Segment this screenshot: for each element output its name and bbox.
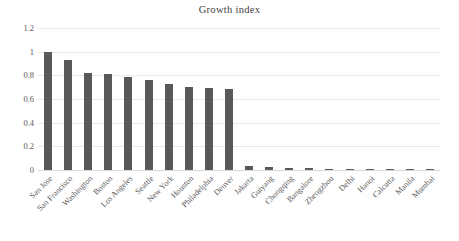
y-tick-label: 0 — [0, 165, 34, 175]
bar-slot — [199, 28, 219, 170]
y-tick-label: 1 — [0, 47, 34, 57]
bars-layer — [38, 28, 440, 170]
bar-slot — [38, 28, 58, 170]
bar-slot — [159, 28, 179, 170]
growth-index-chart: Growth index 00.20.40.60.811.2 San JoseS… — [0, 0, 459, 241]
bar[interactable] — [346, 169, 354, 170]
bar-slot — [259, 28, 279, 170]
gridline-0 — [38, 170, 440, 171]
bar[interactable] — [265, 167, 273, 170]
bar-slot — [58, 28, 78, 170]
bar[interactable] — [406, 169, 414, 170]
bar[interactable] — [145, 80, 153, 170]
bar-slot — [319, 28, 339, 170]
bar[interactable] — [386, 169, 394, 170]
bar[interactable] — [225, 89, 233, 170]
bar-slot — [400, 28, 420, 170]
bar-slot — [380, 28, 400, 170]
bar[interactable] — [426, 169, 434, 170]
bar-slot — [360, 28, 380, 170]
bar[interactable] — [366, 169, 374, 170]
bar-slot — [139, 28, 159, 170]
y-tick-label: 1.2 — [0, 23, 34, 33]
bar[interactable] — [84, 73, 92, 170]
y-tick-label: 0.2 — [0, 141, 34, 151]
y-tick-label: 0.4 — [0, 118, 34, 128]
bar[interactable] — [185, 87, 193, 170]
y-tick-label: 0.8 — [0, 70, 34, 80]
bar-slot — [340, 28, 360, 170]
bar-slot — [420, 28, 440, 170]
bar[interactable] — [104, 74, 112, 170]
bar-slot — [299, 28, 319, 170]
bar[interactable] — [305, 168, 313, 170]
bar[interactable] — [124, 77, 132, 170]
bar[interactable] — [285, 168, 293, 170]
bar-slot — [239, 28, 259, 170]
bar-slot — [219, 28, 239, 170]
bar-slot — [98, 28, 118, 170]
bar-slot — [78, 28, 98, 170]
bar-slot — [118, 28, 138, 170]
bar[interactable] — [325, 169, 333, 170]
bar-slot — [179, 28, 199, 170]
y-tick-label: 0.6 — [0, 94, 34, 104]
bar[interactable] — [245, 166, 253, 170]
bar-slot — [279, 28, 299, 170]
y-axis: 00.20.40.60.811.2 — [0, 28, 34, 170]
x-axis: San JoseSan FranciscoWashingtonBostonLos… — [38, 172, 440, 241]
chart-title: Growth index — [0, 4, 459, 15]
bar[interactable] — [44, 52, 52, 170]
bar[interactable] — [165, 84, 173, 170]
bar[interactable] — [64, 60, 72, 170]
bar[interactable] — [205, 88, 213, 170]
